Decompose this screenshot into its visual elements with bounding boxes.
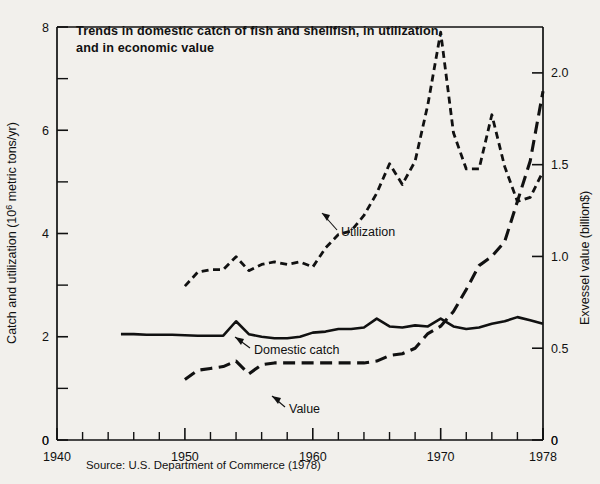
y-ticklabel-origin-right: 0: [551, 434, 558, 448]
y2-ticklabel-1.5: 1.5: [551, 158, 568, 172]
y-ticklabel-2: 2: [42, 330, 49, 344]
y-axis-left-title-text: Catch and utilization (10: [5, 210, 19, 344]
chart-title-line-2: and in economic value: [76, 41, 214, 55]
source-note: Source: U.S. Department of Commerce (197…: [86, 459, 321, 471]
series-label-utilization: Utilization: [341, 225, 395, 239]
x-ticklabel-1940: 1940: [43, 450, 71, 464]
series-label-value: Value: [289, 402, 320, 416]
y2-ticklabel-1: 1.0: [551, 250, 568, 264]
chart-svg: 0246800.51.01.52.01940195019601970197800…: [0, 0, 600, 484]
y-axis-left-title: Catch and utilization (106 metric tons/y…: [4, 122, 19, 344]
y-ticklabel-6: 6: [42, 124, 49, 138]
x-ticklabel-1978: 1978: [529, 450, 557, 464]
x-ticklabel-1970: 1970: [427, 450, 455, 464]
y-ticklabel-8: 8: [42, 21, 49, 35]
y2-ticklabel-0.5: 0.5: [551, 342, 568, 356]
y-ticklabel-origin-left: 0: [42, 434, 49, 448]
y-axis-right-title: Exvessel value (billion$): [578, 191, 592, 325]
y-ticklabel-4: 4: [42, 227, 49, 241]
chart-figure: 0246800.51.01.52.01940195019601970197800…: [0, 0, 600, 484]
chart-title-line-1: Trends in domestic catch of fish and she…: [76, 24, 442, 38]
series-label-domestic-catch: Domestic catch: [254, 343, 339, 357]
y2-ticklabel-2: 2.0: [551, 66, 568, 80]
